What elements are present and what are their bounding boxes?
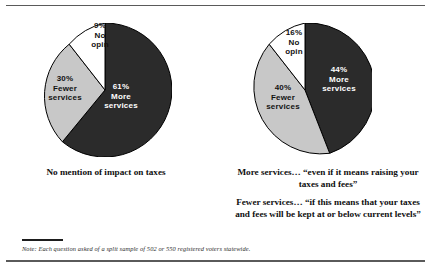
figure-container: 61% More services 30% Fewer services 9% … <box>0 0 431 267</box>
top-rule <box>6 5 425 6</box>
bottom-rule <box>6 260 425 262</box>
caption-right-chart-more-services: More services… “even if it means raising… <box>233 166 423 190</box>
footnote-rule <box>22 239 63 241</box>
caption-right-chart-fewer-services: Fewer services… “if this means that your… <box>229 196 427 220</box>
pie-left-svg <box>38 23 172 157</box>
caption-left-chart: No mention of impact on taxes <box>18 166 194 178</box>
footnote-text: Note: Each question asked of a split sam… <box>22 245 412 253</box>
pie-chart-left: 61% More services 30% Fewer services 9% … <box>38 23 172 157</box>
pie-chart-right: 44% More services 40% Fewer services 16%… <box>238 23 372 157</box>
pie-right-svg <box>238 23 372 157</box>
